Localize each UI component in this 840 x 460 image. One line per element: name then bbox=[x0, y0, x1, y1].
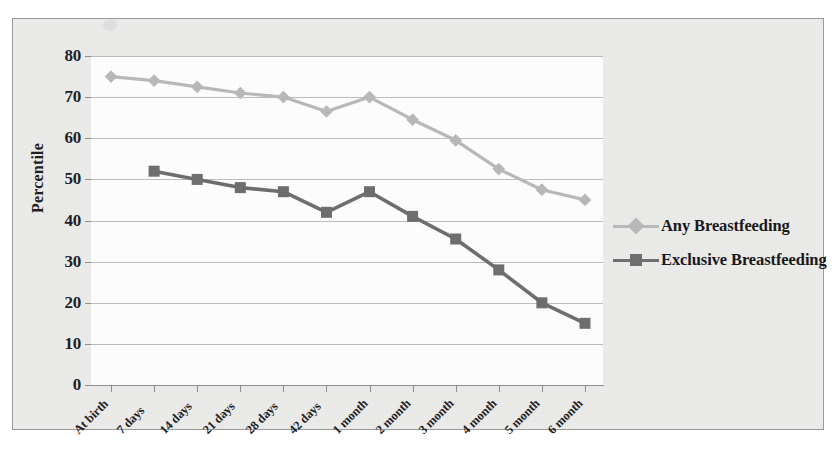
data-point-marker bbox=[192, 174, 203, 185]
y-axis-tick-label: 10 bbox=[31, 335, 81, 352]
data-point-marker bbox=[579, 194, 592, 207]
data-point-marker bbox=[407, 211, 418, 222]
legend-item[interactable]: Exclusive Breastfeeding bbox=[613, 243, 828, 277]
x-axis-tick-mark bbox=[197, 386, 198, 392]
x-axis-tick-mark bbox=[111, 386, 112, 392]
x-axis-tick-mark bbox=[326, 386, 327, 392]
data-point-marker bbox=[580, 318, 591, 329]
legend-label: Any Breastfeeding bbox=[661, 216, 790, 236]
data-point-marker bbox=[105, 70, 118, 83]
legend-marker-diamond-icon bbox=[628, 218, 645, 235]
data-point-marker bbox=[493, 264, 504, 275]
data-point-marker bbox=[149, 166, 160, 177]
data-point-marker bbox=[235, 182, 246, 193]
data-point-marker bbox=[148, 74, 161, 87]
series-lines bbox=[91, 56, 603, 385]
legend-item[interactable]: Any Breastfeeding bbox=[613, 209, 828, 243]
series-line-1 bbox=[111, 77, 585, 200]
data-point-marker bbox=[278, 186, 289, 197]
y-axis-tick-label: 40 bbox=[31, 212, 81, 229]
legend-swatch-diamond-icon bbox=[613, 218, 659, 234]
x-axis-tick-mark bbox=[283, 386, 284, 392]
data-point-marker bbox=[536, 183, 549, 196]
x-axis-tick-mark bbox=[370, 386, 371, 392]
y-axis-tick-label: 80 bbox=[31, 47, 81, 64]
y-axis-tick-label: 30 bbox=[31, 253, 81, 270]
data-point-marker bbox=[321, 207, 332, 218]
y-axis-tick-label: 70 bbox=[31, 88, 81, 105]
data-point-marker bbox=[320, 105, 333, 118]
x-axis-tick-mark bbox=[456, 386, 457, 392]
data-point-marker bbox=[364, 186, 375, 197]
plot-area bbox=[91, 56, 603, 385]
legend-swatch-square-icon bbox=[613, 252, 659, 268]
legend-label: Exclusive Breastfeeding bbox=[661, 250, 827, 270]
x-axis-tick-mark bbox=[542, 386, 543, 392]
x-axis-tick-mark bbox=[413, 386, 414, 392]
data-point-marker bbox=[234, 87, 247, 100]
data-point-marker bbox=[363, 91, 376, 104]
chart-frame: Percentile 01020304050607080 At birth7 d… bbox=[12, 18, 824, 430]
y-axis-tick-label: 20 bbox=[31, 294, 81, 311]
data-point-marker bbox=[406, 113, 419, 126]
data-point-marker bbox=[191, 80, 204, 93]
data-point-marker bbox=[450, 234, 461, 245]
y-axis-tick-label: 0 bbox=[31, 376, 81, 393]
chart-legend: Any BreastfeedingExclusive Breastfeeding bbox=[613, 209, 828, 277]
x-axis-tick-mark bbox=[585, 386, 586, 392]
data-point-marker bbox=[536, 297, 547, 308]
chart-screenshot: Percentile 01020304050607080 At birth7 d… bbox=[0, 0, 840, 460]
y-axis-tick-label: 60 bbox=[31, 129, 81, 146]
scan-artifact bbox=[103, 19, 117, 31]
y-axis-tick-label: 50 bbox=[31, 170, 81, 187]
legend-marker-square-icon bbox=[630, 254, 642, 266]
x-axis-tick-mark bbox=[240, 386, 241, 392]
x-axis-tick-mark bbox=[154, 386, 155, 392]
x-axis-tick-mark bbox=[499, 386, 500, 392]
data-point-marker bbox=[277, 91, 290, 104]
x-axis-line bbox=[91, 385, 604, 386]
